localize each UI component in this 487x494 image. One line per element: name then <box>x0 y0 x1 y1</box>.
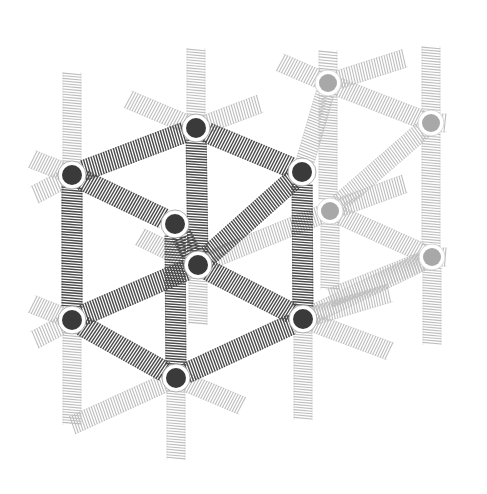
dark-mass-node <box>161 210 189 238</box>
light-mass-node <box>315 70 341 96</box>
dark-mass-node <box>182 114 210 142</box>
light-mass-node <box>419 244 445 270</box>
dark-mass-node <box>58 306 86 334</box>
light-mass-node <box>418 110 444 136</box>
dark-mass-node <box>184 251 212 279</box>
dark-mass-node <box>162 364 190 392</box>
lattice-canvas <box>0 0 487 494</box>
light-mass-node <box>317 198 343 224</box>
dark-mass-node <box>58 161 86 189</box>
dark-mass-node <box>289 305 317 333</box>
spring-lattice-diagram: Cubic spring-mass lattice <box>0 0 487 494</box>
dark-mass-node <box>288 158 316 186</box>
